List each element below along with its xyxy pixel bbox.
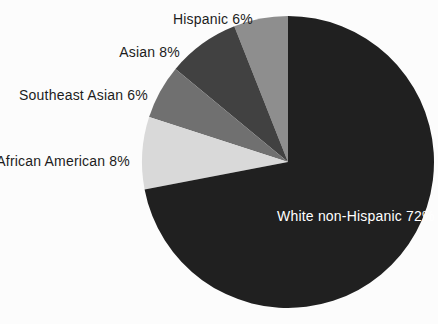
slice-label-hispanic: Hispanic 6% [173, 11, 253, 27]
slice-label-african-american: African American 8% [0, 153, 130, 169]
slice-label-southeast-asian: Southeast Asian 6% [19, 87, 148, 103]
pie-chart-figure: Hispanic 6% Asian 8% Southeast Asian 6% … [0, 0, 438, 324]
slice-label-asian: Asian 8% [119, 44, 180, 60]
slice-label-white-non-hispanic: White non-Hispanic 72% [277, 208, 435, 224]
